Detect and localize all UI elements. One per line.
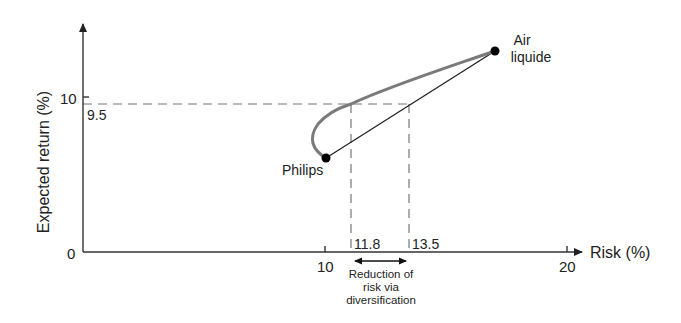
philips-label: Philips xyxy=(282,162,323,178)
reference-lines xyxy=(83,104,410,252)
ref-label-13-5: 13.5 xyxy=(412,236,439,252)
axes xyxy=(83,24,582,252)
annotation-line2: risk via xyxy=(363,281,399,293)
air-liquide-point xyxy=(491,47,500,56)
ref-label-11-8: 11.8 xyxy=(354,236,380,252)
x-axis-title: Risk (%) xyxy=(590,244,650,261)
y-axis-title: Expected return (%) xyxy=(35,91,52,233)
x-tick-label-20: 20 xyxy=(559,258,576,275)
risk-return-chart: 0 10 9.5 10 20 11.8 13.5 Philips Air liq… xyxy=(0,0,681,323)
origin-label: 0 xyxy=(67,245,75,262)
air-liquide-label-line2: liquide xyxy=(511,49,552,65)
y-tick-label-10: 10 xyxy=(60,90,77,107)
annotation-line3: diversification xyxy=(346,294,416,306)
annotation-line1: Reduction of xyxy=(349,268,414,280)
x-tick-label-10: 10 xyxy=(317,258,334,275)
air-liquide-label-line1: Air xyxy=(513,32,530,48)
ref-label-9-5: 9.5 xyxy=(87,107,107,123)
